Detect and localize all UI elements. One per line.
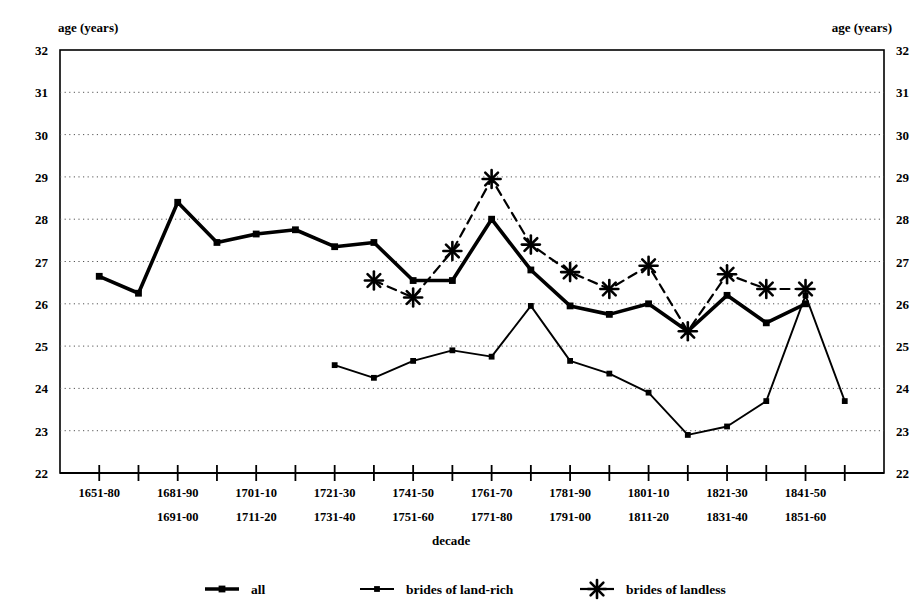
asterisk-core <box>646 263 651 268</box>
x-tick-label-lower: 1851-60 <box>785 510 827 524</box>
data-point <box>684 328 691 335</box>
legend-item[interactable]: brides of landless <box>580 580 726 598</box>
y-tick-label-left: 32 <box>35 43 48 58</box>
y-tick-label-left: 23 <box>35 424 49 439</box>
asterisk-core <box>607 287 612 292</box>
data-point <box>489 354 495 360</box>
data-point <box>763 398 769 404</box>
asterisk-core <box>764 287 769 292</box>
y-tick-label-right: 23 <box>896 424 910 439</box>
x-tick-label-upper: 1721-30 <box>314 486 356 500</box>
data-point <box>410 277 417 284</box>
x-tick-label-lower: 1731-40 <box>314 510 356 524</box>
data-point <box>292 226 299 233</box>
data-point <box>449 277 456 284</box>
y-tick-label-left: 24 <box>35 381 49 396</box>
legend-marker <box>374 586 380 592</box>
data-point <box>724 424 730 430</box>
line-chart: 3232313130302929282827272626252524242323… <box>0 0 920 616</box>
data-point <box>488 216 495 223</box>
data-point <box>443 242 461 260</box>
x-tick-label-upper: 1651-80 <box>78 486 120 500</box>
x-tick-label-upper: 1681-90 <box>157 486 199 500</box>
y-tick-label-left: 31 <box>35 85 48 100</box>
data-point <box>365 272 383 290</box>
chart-legend: allbrides of land-richbrides of landless <box>205 580 726 598</box>
y-axis-title-left: age (years) <box>58 20 118 36</box>
data-point <box>802 300 809 307</box>
asterisk-core <box>803 287 808 292</box>
y-tick-label-right: 26 <box>896 297 910 312</box>
data-point <box>561 263 579 281</box>
y-tick-label-left: 27 <box>35 255 49 270</box>
data-point <box>567 303 574 310</box>
legend-label: brides of landless <box>626 582 726 597</box>
x-tick-label-upper: 1781-90 <box>549 486 591 500</box>
y-tick-label-right: 32 <box>896 43 909 58</box>
y-tick-label-right: 29 <box>896 170 910 185</box>
y-tick-label-left: 22 <box>35 466 48 481</box>
data-point <box>600 280 618 298</box>
data-point <box>685 432 691 438</box>
legend-marker <box>588 580 606 598</box>
y-tick-label-left: 25 <box>35 339 49 354</box>
x-tick-label-upper: 1741-50 <box>392 486 434 500</box>
data-point <box>332 362 338 368</box>
chart-figure: 3232313130302929282827272626252524242323… <box>0 0 920 616</box>
x-tick-label-lower: 1831-40 <box>706 510 748 524</box>
data-point <box>135 290 142 297</box>
y-tick-label-right: 31 <box>896 85 909 100</box>
asterisk-core <box>489 177 494 182</box>
x-tick-label-lower: 1771-80 <box>471 510 513 524</box>
y-tick-label-right: 30 <box>896 128 909 143</box>
x-tick-label-upper: 1821-30 <box>706 486 748 500</box>
data-point <box>567 358 573 364</box>
data-point <box>174 199 181 206</box>
legend-item[interactable]: brides of land-rich <box>360 582 514 597</box>
x-axis-title: decade <box>432 533 470 549</box>
data-point <box>645 300 652 307</box>
asterisk-core <box>568 270 573 275</box>
y-tick-label-left: 26 <box>35 297 49 312</box>
legend-label: brides of land-rich <box>406 582 514 597</box>
data-point <box>410 358 416 364</box>
y-tick-label-left: 28 <box>35 212 49 227</box>
data-point <box>606 371 612 377</box>
data-point <box>797 280 815 298</box>
x-tick-label-lower: 1791-00 <box>549 510 591 524</box>
data-point <box>371 239 378 246</box>
y-tick-label-right: 28 <box>896 212 910 227</box>
asterisk-core <box>595 587 600 592</box>
y-axis-title-right: age (years) <box>832 20 892 36</box>
y-tick-label-right: 22 <box>896 466 909 481</box>
x-tick-label-upper: 1761-70 <box>471 486 513 500</box>
data-point <box>371 375 377 381</box>
data-point <box>483 170 501 188</box>
data-point <box>253 231 260 238</box>
asterisk-core <box>528 242 533 247</box>
asterisk-core <box>450 249 455 254</box>
data-point <box>763 319 770 326</box>
legend-marker <box>219 586 226 593</box>
legend-label: all <box>251 582 266 597</box>
x-tick-label-lower: 1691-00 <box>157 510 199 524</box>
asterisk-core <box>372 278 377 283</box>
legend-item[interactable]: all <box>205 582 266 597</box>
y-tick-label-right: 24 <box>896 381 910 396</box>
data-point <box>646 390 652 396</box>
x-tick-label-lower: 1811-20 <box>628 510 669 524</box>
y-tick-label-right: 27 <box>896 255 910 270</box>
x-tick-label-lower: 1751-60 <box>392 510 434 524</box>
data-point <box>757 280 775 298</box>
x-tick-label-lower: 1711-20 <box>236 510 277 524</box>
x-tick-label-upper: 1701-10 <box>235 486 277 500</box>
data-point <box>842 398 848 404</box>
data-point <box>522 236 540 254</box>
data-point <box>449 347 455 353</box>
data-point <box>718 265 736 283</box>
data-point <box>331 243 338 250</box>
data-point <box>404 288 422 306</box>
asterisk-core <box>411 295 416 300</box>
y-tick-label-left: 30 <box>35 128 48 143</box>
data-point <box>527 267 534 274</box>
